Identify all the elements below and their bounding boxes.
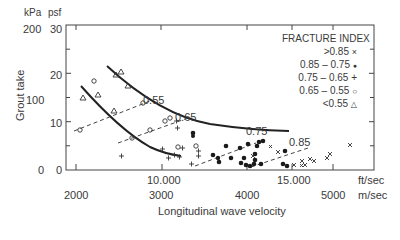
envelope-upper-curve [107, 66, 289, 131]
series-triangles [80, 69, 131, 113]
legend-label: 0.65 – 0.55 [299, 85, 349, 96]
unit-ftsec-label: ft/sec [358, 175, 384, 186]
right-axis-ticks [369, 49, 374, 146]
legend-label: 0.75 – 0.65 [298, 72, 348, 83]
legend-label: <0.55 [323, 98, 348, 109]
legend-label: 0.85 – 0.75 [300, 59, 350, 70]
legend-row-lt055: <0.55 △ [323, 99, 357, 109]
m-tick-5000: 5000 [321, 190, 345, 201]
trend-line-055 [74, 101, 150, 131]
m-tick-3000: 3000 [149, 190, 173, 201]
m-tick-2000: 2000 [64, 190, 88, 201]
x-marker-icon: × [352, 47, 357, 57]
unit-msec-label: m/sec [358, 190, 387, 201]
triangle-marker-icon: △ [351, 100, 357, 109]
ft-tick-10000: 10.000 [147, 175, 181, 186]
top-axis-ticks [76, 25, 333, 30]
legend-row-085-075: 0.85 – 0.75 ● [300, 60, 357, 70]
curve-label-055: 0.55 [143, 95, 164, 106]
curve-label-075: 0.75 [246, 126, 267, 137]
filled-circle-icon: ● [353, 62, 357, 69]
legend-label: >0.85 [324, 46, 349, 57]
x-axis-title: Longitudinal wave velocity [158, 206, 286, 217]
series-plus [119, 119, 201, 167]
m-tick-4000: 4000 [235, 190, 259, 201]
left-axis-ticks [66, 49, 71, 146]
legend-title: FRACTURE INDEX [282, 33, 370, 44]
curve-label-085: 0.85 [289, 137, 310, 148]
envelope-lower-curve [81, 86, 181, 156]
open-circle-icon: ○ [352, 87, 357, 96]
legend-row-gt085: >0.85 × [324, 47, 357, 57]
curve-label-065: 0.65 [175, 112, 196, 123]
legend-row-075-065: 0.75 – 0.65 + [298, 73, 357, 83]
legend-row-065-055: 0.65 – 0.55 ○ [299, 86, 357, 96]
ft-tick-15000: 15.000 [277, 175, 311, 186]
series-filled-circles [191, 131, 290, 169]
plus-marker-icon: + [351, 72, 357, 83]
